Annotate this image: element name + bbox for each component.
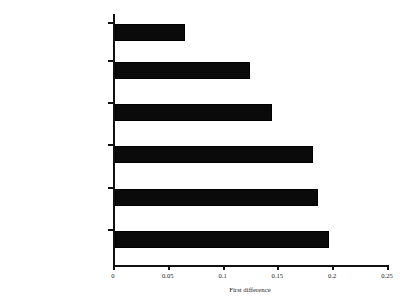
bar — [115, 146, 313, 163]
x-axis-tick-label: 0.25 — [367, 272, 407, 279]
bar — [115, 24, 185, 41]
x-axis-tick-label: 0.15 — [257, 272, 297, 279]
y-axis-tick — [108, 229, 113, 231]
x-axis-tick-label: 0 — [93, 272, 133, 279]
x-axis-tick — [332, 265, 334, 270]
y-axis-tick — [108, 187, 113, 189]
bar — [115, 62, 250, 79]
y-axis-tick — [108, 22, 113, 24]
x-axis-tick — [113, 265, 115, 270]
chart-title — [36, 0, 336, 2]
x-axis-tick-label: 0.2 — [312, 272, 352, 279]
y-axis-tick — [108, 102, 113, 104]
x-axis-tick — [277, 265, 279, 270]
x-axis-title: First difference — [113, 286, 387, 293]
chart-page: Favor national identity card Let govt. m… — [0, 0, 419, 297]
bar — [115, 231, 329, 248]
x-axis-tick — [387, 265, 389, 270]
y-axis-line — [113, 14, 115, 265]
x-axis-tick-label: 0.05 — [148, 272, 188, 279]
bar — [115, 104, 272, 121]
y-axis-tick — [108, 60, 113, 62]
x-axis-tick — [168, 265, 170, 270]
y-axis-tick — [108, 144, 113, 146]
x-axis-tick — [223, 265, 225, 270]
plot-area: Favor national identity card Let govt. m… — [113, 14, 387, 265]
bar — [115, 189, 318, 206]
x-axis-line — [113, 265, 387, 267]
x-axis-tick-label: 0.1 — [203, 272, 243, 279]
